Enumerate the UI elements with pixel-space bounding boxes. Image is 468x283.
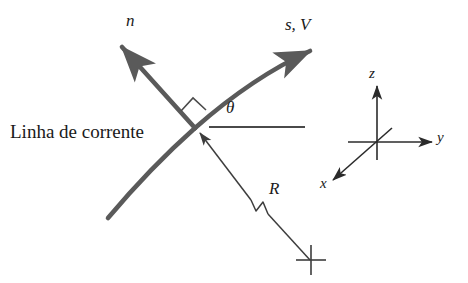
label-angle-theta: θ	[226, 99, 234, 116]
radius-arrow	[200, 133, 310, 260]
label-radius: R	[269, 180, 279, 197]
axis-x-line	[333, 128, 392, 180]
label-axis-y: y	[437, 130, 444, 145]
label-streamline: Linha de corrente	[10, 122, 144, 141]
right-angle-marker	[181, 98, 206, 111]
label-normal-axis: n	[126, 12, 135, 29]
label-streamwise-axis: s, V	[285, 16, 311, 33]
normal-arrow	[122, 47, 195, 128]
label-axis-x: x	[320, 176, 327, 191]
label-axis-z: z	[369, 66, 375, 81]
streamline-diagram: n s, V θ R Linha de corrente z y x	[0, 0, 468, 283]
coordinate-triad	[333, 86, 432, 180]
